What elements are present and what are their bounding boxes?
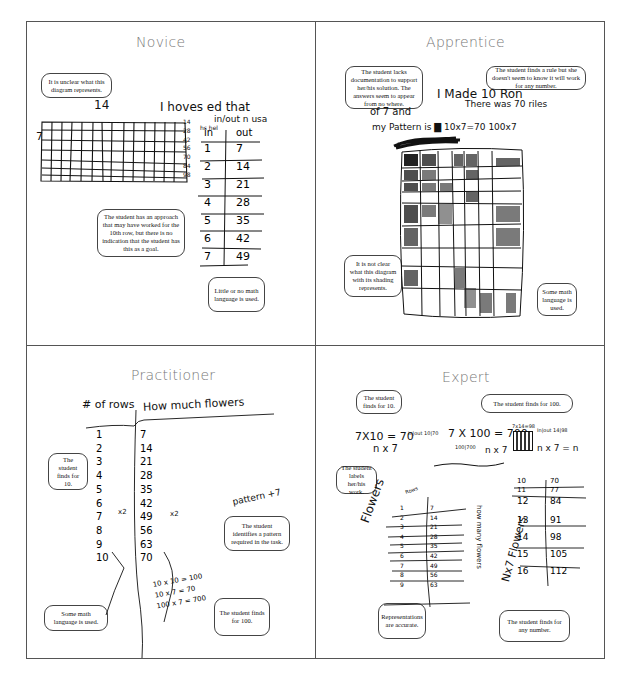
vertical-divider [315, 21, 316, 659]
t-table-lines [84, 390, 284, 660]
expert-right-table: 1070 1177 1284 1391 1498 15105 16112 [517, 477, 567, 583]
quadrant-title: Practitioner [131, 367, 215, 383]
shaded-tile-grid [400, 148, 525, 318]
handwritten-sentence: of 7 and [370, 106, 411, 117]
equation: n x 7 [485, 445, 507, 455]
rubric-note: The student has an approach that may hav… [97, 209, 185, 257]
handwritten-label: 14 [94, 98, 109, 112]
rubric-note: The student lacks documentation to suppo… [345, 66, 423, 109]
rubric-note: Little or no math language is used. [208, 277, 265, 312]
underline-squiggle [432, 460, 507, 470]
rubric-note: The student finds for 10. [356, 390, 402, 414]
handwritten-sentence: There was 70 riles [465, 100, 555, 109]
handwritten-sentence: I hoves ed that [160, 100, 250, 114]
quadrant-title: Novice [136, 34, 185, 50]
hand-drawn-grid [40, 120, 190, 185]
expert-left-table: 17 214 321 428 535 642 749 856 963 [400, 503, 438, 589]
grid-right-labels: 14 28 42 56 70 84 98 [183, 118, 191, 180]
quadrant-title: Expert [442, 369, 490, 385]
mini-table: In|out 14|98 [537, 427, 568, 433]
rubric-note: The student finds for 100. [481, 394, 573, 413]
equation: n x 7 = n [537, 443, 578, 453]
rubric-note: The student finds for 10. [48, 453, 88, 490]
flowers-column: 7 14 21 28 35 42 49 56 63 70 [140, 428, 153, 565]
calculator-icon [513, 431, 533, 451]
rubric-note: It is unclear what this diagram represen… [41, 73, 112, 98]
equation: n x 7 [373, 443, 398, 454]
x2-annotation: x2 [170, 510, 179, 518]
x2-annotation: x2 [118, 508, 127, 516]
handwritten-sentence: my Pattern is ▇ 10x7=70 100x7 [372, 122, 517, 132]
mini-table: in|out 10|70 [408, 430, 438, 436]
quadrant-title: Apprentice [426, 34, 505, 50]
rubric-note: Some math language is used. [537, 283, 577, 316]
horizontal-divider [26, 345, 605, 346]
rubric-note: The student finds for any number. [499, 610, 570, 642]
axis-label: how many flowers [475, 505, 483, 569]
handwritten-sentence: in/out n usa [214, 114, 267, 124]
mini-table: 100|700 [455, 444, 476, 450]
rubric-note: It is not clear what this diagram with i… [344, 255, 402, 297]
in-out-table: inout 17 214 321 428 535 642 749 [204, 127, 264, 268]
rows-column: 1 2 3 4 5 6 7 8 9 10 [96, 428, 109, 565]
equation: 7x14=98 [512, 423, 535, 429]
equation: 7X10 = 70 [355, 430, 414, 443]
